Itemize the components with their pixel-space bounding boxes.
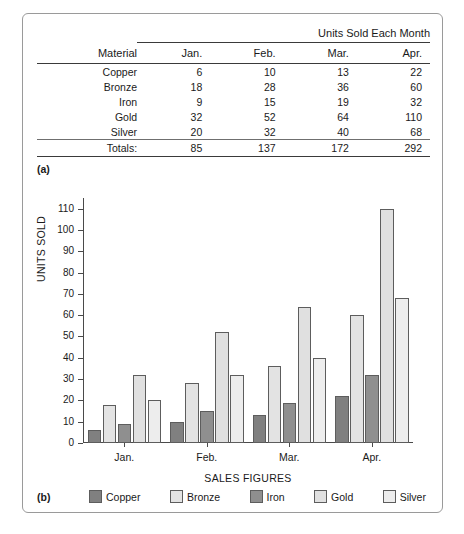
chart-panel: UNITS SOLD 0102030405060708090100110 Jan…	[37, 190, 430, 500]
span-header-spacer	[37, 26, 137, 43]
bar-bronze-mar	[268, 366, 282, 443]
row-value-mar: 64	[284, 109, 357, 124]
x-tick-label: Feb.	[196, 451, 217, 463]
x-axis-label: SALES FIGURES	[83, 472, 413, 484]
legend-swatch-copper	[89, 490, 102, 503]
part-a-caption: (a)	[37, 163, 430, 175]
bar-gold-apr	[380, 209, 394, 443]
x-tick	[124, 443, 125, 447]
y-tick-label: 10	[63, 416, 74, 427]
legend-label: Copper	[106, 491, 140, 503]
bar-iron-jan	[118, 424, 132, 443]
y-tick-label: 20	[63, 394, 74, 405]
y-tick: 110	[78, 209, 83, 210]
row-value-jan: 32	[137, 109, 210, 124]
y-tick: 0	[78, 443, 83, 444]
row-value-feb: 28	[210, 79, 283, 94]
y-tick: 30	[78, 379, 83, 380]
x-tick-label: Apr.	[362, 451, 381, 463]
y-axis-label: UNITS SOLD	[35, 216, 47, 282]
y-tick-label: 30	[63, 373, 74, 384]
y-tick-label: 70	[63, 288, 74, 299]
bar-silver-apr	[395, 298, 409, 443]
bar-bronze-apr	[350, 315, 364, 443]
bar-copper-jan	[88, 430, 102, 443]
legend-item-silver[interactable]: Silver	[383, 490, 426, 503]
legend-swatch-silver	[383, 490, 396, 503]
legend-item-gold[interactable]: Gold	[314, 490, 353, 503]
bar-bronze-jan	[103, 405, 117, 443]
table-header-apr: Apr.	[357, 43, 430, 64]
row-value-apr: 60	[357, 79, 430, 94]
part-b-caption: (b)	[37, 491, 89, 503]
y-tick-label: 50	[63, 330, 74, 341]
row-value-jan: 18	[137, 79, 210, 94]
plot-area: 0102030405060708090100110 Jan.Feb.Mar.Ap…	[83, 198, 413, 443]
row-value-feb: 15	[210, 94, 283, 109]
legend-label: Iron	[267, 491, 285, 503]
bar-gold-mar	[298, 307, 312, 443]
y-tick-label: 80	[63, 267, 74, 278]
table-row: Silver 20 32 40 68	[37, 124, 430, 140]
table-header-material: Material	[37, 43, 137, 64]
totals-value-jan: 85	[137, 140, 210, 157]
legend-item-copper[interactable]: Copper	[89, 490, 140, 503]
table-header-row: Material Jan. Feb. Mar. Apr.	[37, 43, 430, 64]
bar-copper-mar	[253, 415, 267, 443]
row-value-apr: 22	[357, 64, 430, 80]
y-tick-label: 60	[63, 309, 74, 320]
legend-items: CopperBronzeIronGoldSilver	[89, 490, 430, 503]
bar-copper-apr	[335, 396, 349, 443]
table-header-feb: Feb.	[210, 43, 283, 64]
row-material: Copper	[37, 64, 137, 80]
totals-value-feb: 137	[210, 140, 283, 157]
x-tick-label: Jan.	[114, 451, 134, 463]
y-tick: 40	[78, 358, 83, 359]
table-row: Iron 9 15 19 32	[37, 94, 430, 109]
bar-iron-mar	[283, 403, 297, 443]
table-row: Gold 32 52 64 110	[37, 109, 430, 124]
x-tick	[289, 443, 290, 447]
x-tick	[207, 443, 208, 447]
row-material: Silver	[37, 124, 137, 140]
table-panel: Units Sold Each Month Material Jan. Feb.…	[37, 26, 430, 175]
row-value-mar: 19	[284, 94, 357, 109]
bar-copper-feb	[170, 422, 184, 443]
legend-swatch-bronze	[170, 490, 183, 503]
row-value-mar: 40	[284, 124, 357, 140]
legend-item-iron[interactable]: Iron	[250, 490, 285, 503]
row-value-jan: 6	[137, 64, 210, 80]
y-tick-label: 100	[57, 224, 74, 235]
table-span-header: Units Sold Each Month	[137, 26, 430, 43]
bar-bronze-feb	[185, 383, 199, 443]
units-sold-table: Units Sold Each Month Material Jan. Feb.…	[37, 26, 430, 157]
table-header-jan: Jan.	[137, 43, 210, 64]
bar-iron-feb	[200, 411, 214, 443]
y-tick: 80	[78, 273, 83, 274]
row-value-mar: 36	[284, 79, 357, 94]
bar-silver-mar	[313, 358, 327, 443]
y-tick: 60	[78, 315, 83, 316]
totals-value-apr: 292	[357, 140, 430, 157]
y-tick-label: 40	[63, 352, 74, 363]
bar-gold-jan	[133, 375, 147, 443]
row-material: Iron	[37, 94, 137, 109]
row-material: Bronze	[37, 79, 137, 94]
row-value-apr: 32	[357, 94, 430, 109]
row-value-apr: 68	[357, 124, 430, 140]
table-row: Bronze 18 28 36 60	[37, 79, 430, 94]
x-tick	[372, 443, 373, 447]
legend-swatch-gold	[314, 490, 327, 503]
totals-label: Totals:	[37, 140, 137, 157]
y-axis-line	[83, 198, 84, 443]
row-material: Gold	[37, 109, 137, 124]
legend-item-bronze[interactable]: Bronze	[170, 490, 220, 503]
y-tick-label: 90	[63, 245, 74, 256]
legend-label: Gold	[331, 491, 353, 503]
y-tick-label: 110	[58, 203, 74, 214]
bar-gold-feb	[215, 332, 229, 443]
row-value-jan: 20	[137, 124, 210, 140]
bar-silver-feb	[230, 375, 244, 443]
row-value-apr: 110	[357, 109, 430, 124]
bar-silver-jan	[148, 400, 162, 443]
